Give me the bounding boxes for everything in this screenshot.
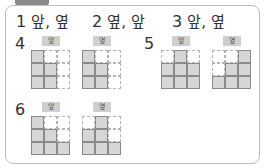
filled-cell <box>31 142 44 155</box>
problem-6-number: 6 <box>15 100 25 119</box>
filled-cell <box>187 76 200 89</box>
problem-5-number: 5 <box>144 34 154 53</box>
answer-1: 1앞, 옆 <box>16 10 69 31</box>
empty-cell <box>108 63 121 76</box>
filled-cell <box>82 129 95 142</box>
empty-cell <box>108 129 121 142</box>
empty-cell <box>57 129 70 142</box>
filled-cell <box>174 63 187 76</box>
filled-cell <box>44 129 57 142</box>
side-view-grid <box>82 116 121 155</box>
empty-cell <box>225 50 238 63</box>
side-label: 옆 <box>93 102 111 112</box>
side-view-grid <box>212 50 251 89</box>
front-view-grid <box>31 116 70 155</box>
filled-cell <box>174 50 187 63</box>
empty-cell <box>57 50 70 63</box>
filled-cell <box>31 63 44 76</box>
side-label: 옆 <box>93 36 111 46</box>
filled-cell <box>174 76 187 89</box>
filled-cell <box>95 76 108 89</box>
front-view-grid <box>161 50 200 89</box>
filled-cell <box>82 63 95 76</box>
filled-cell <box>95 142 108 155</box>
filled-cell <box>95 129 108 142</box>
filled-cell <box>95 116 108 129</box>
filled-cell <box>44 142 57 155</box>
filled-cell <box>238 63 251 76</box>
filled-cell <box>31 129 44 142</box>
filled-cell <box>31 50 44 63</box>
empty-cell <box>57 76 70 89</box>
front-view-grid <box>31 50 70 89</box>
empty-cell <box>95 50 108 63</box>
empty-cell <box>212 50 225 63</box>
front-label: 앞 <box>42 36 60 46</box>
front-label: 앞 <box>42 102 60 112</box>
empty-cell <box>108 116 121 129</box>
empty-cell <box>82 116 95 129</box>
filled-cell <box>225 76 238 89</box>
filled-cell <box>44 76 57 89</box>
empty-cell <box>187 50 200 63</box>
answer-2: 2옆, 앞 <box>92 10 145 31</box>
empty-cell <box>57 63 70 76</box>
empty-cell <box>212 63 225 76</box>
filled-cell <box>212 76 225 89</box>
side-view-grid <box>82 50 121 89</box>
filled-cell <box>95 63 108 76</box>
problem-4-number: 4 <box>15 34 25 53</box>
filled-cell <box>31 76 44 89</box>
filled-cell <box>82 50 95 63</box>
filled-cell <box>31 116 44 129</box>
filled-cell <box>161 63 174 76</box>
empty-cell <box>44 116 57 129</box>
filled-cell <box>82 142 95 155</box>
answer-3: 3앞, 옆 <box>172 10 225 31</box>
filled-cell <box>238 50 251 63</box>
filled-cell <box>82 76 95 89</box>
empty-cell <box>161 50 174 63</box>
empty-cell <box>108 76 121 89</box>
empty-cell <box>44 50 57 63</box>
filled-cell <box>225 63 238 76</box>
filled-cell <box>57 142 70 155</box>
filled-cell <box>161 76 174 89</box>
empty-cell <box>57 116 70 129</box>
side-label: 옆 <box>223 36 241 46</box>
filled-cell <box>238 76 251 89</box>
filled-cell <box>44 63 57 76</box>
filled-cell <box>187 63 200 76</box>
front-label: 앞 <box>172 36 190 46</box>
filled-cell <box>108 142 121 155</box>
empty-cell <box>108 50 121 63</box>
